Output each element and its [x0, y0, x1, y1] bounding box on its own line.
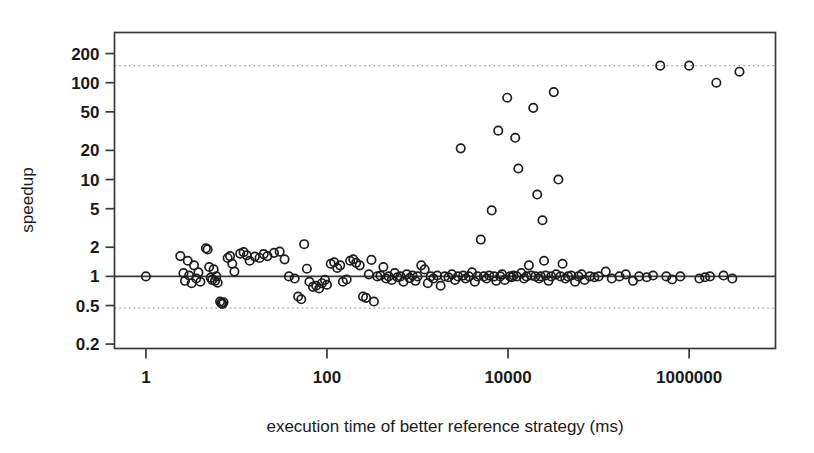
scatter-plot-figure: 2001005020105210.50.2 1100100001000000 s…	[0, 0, 814, 453]
y-tick-label: 5	[90, 200, 99, 219]
x-tick-label: 1000000	[656, 368, 722, 387]
y-tick-label: 10	[81, 171, 100, 190]
x-tick-label: 10000	[484, 368, 531, 387]
y-tick-label: 0.2	[76, 335, 100, 354]
y-tick-label: 20	[81, 141, 100, 160]
y-tick-label: 200	[71, 45, 99, 64]
y-tick-label: 50	[81, 103, 100, 122]
y-tick-label: 0.5	[76, 297, 100, 316]
x-tick-label: 100	[313, 368, 341, 387]
y-tick-label: 2	[90, 238, 99, 257]
x-axis-title: execution time of better reference strat…	[266, 417, 623, 436]
y-tick-label: 1	[90, 267, 99, 286]
y-tick-label: 100	[71, 74, 99, 93]
x-tick-label: 1	[141, 368, 150, 387]
y-axis-title: speedup	[18, 167, 37, 232]
